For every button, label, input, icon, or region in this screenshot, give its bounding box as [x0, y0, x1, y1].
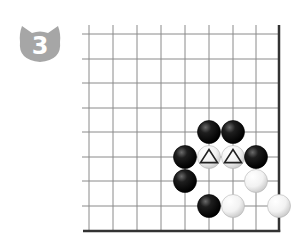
white-stone — [268, 195, 291, 218]
black-stone — [174, 170, 197, 193]
stones-layer — [174, 121, 291, 218]
black-stone — [222, 121, 245, 144]
board-grid — [82, 25, 280, 232]
white-stone — [198, 146, 221, 169]
black-stone — [198, 121, 221, 144]
black-stone — [245, 146, 268, 169]
white-stone — [222, 146, 245, 169]
black-stone — [174, 146, 197, 169]
go-board — [0, 0, 304, 239]
white-stone — [222, 195, 245, 218]
white-stone — [245, 170, 268, 193]
black-stone — [198, 195, 221, 218]
